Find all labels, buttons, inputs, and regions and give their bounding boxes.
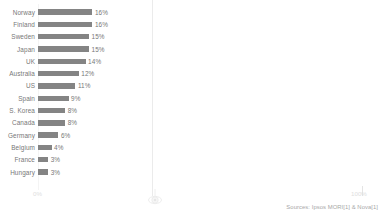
category-label: Hungary [0,169,35,176]
bar [38,108,65,113]
bar [38,83,75,88]
x-axis-tick-min: 0% [33,190,42,197]
bar-track: 16% [35,18,381,30]
bar-value-label: 16% [95,9,108,16]
bar-row: Sweden15% [0,31,381,43]
category-label: UK [0,58,35,65]
bar-row: S. Korea8% [0,104,381,116]
bar [38,59,86,64]
bar-value-label: 4% [54,144,63,151]
bar-track: 15% [35,31,381,43]
bar-row: Hungary3% [0,166,381,178]
bar-row: Finland16% [0,18,381,30]
category-label: Japan [0,46,35,53]
bar [38,145,52,150]
bar [38,71,79,76]
bar [38,120,65,125]
bar-row: US11% [0,80,381,92]
bar-value-label: 15% [92,33,105,40]
category-label: Australia [0,70,35,77]
bar [38,169,48,174]
bar-track: 16% [35,6,381,18]
bar [38,46,89,51]
bar [38,157,48,162]
category-label: S. Korea [0,107,35,114]
bar-row: Australia12% [0,68,381,80]
bar-row: Canada8% [0,117,381,129]
bar-row: Japan15% [0,43,381,55]
bar [38,22,92,27]
bar-track: 4% [35,141,381,153]
bar-row: Germany6% [0,129,381,141]
category-label: France [0,156,35,163]
category-label: Germany [0,132,35,139]
bar-track: 3% [35,166,381,178]
bar-track: 11% [35,80,381,92]
x-axis-tick-max: 100% [351,190,367,197]
bar-value-label: 9% [71,95,80,102]
category-label: Belgium [0,144,35,151]
horizontal-bar-chart: Norway16%Finland16%Sweden15%Japan15%UK14… [0,0,381,218]
plot-area: Norway16%Finland16%Sweden15%Japan15%UK14… [0,6,381,188]
bar-value-label: 15% [92,46,105,53]
bar-row: Spain9% [0,92,381,104]
bar-track: 6% [35,129,381,141]
bar-track: 8% [35,117,381,129]
bar-track: 12% [35,68,381,80]
bar-value-label: 3% [51,156,60,163]
source-note: Sources: Ipsos MORI[1] & Nova[1] [286,203,378,211]
bar [38,34,89,39]
bar-track: 9% [35,92,381,104]
bar [38,132,58,137]
bar-value-label: 8% [68,119,77,126]
category-label: US [0,82,35,89]
bar [38,9,92,14]
bar-row: France3% [0,154,381,166]
category-label: Sweden [0,33,35,40]
bar-track: 15% [35,43,381,55]
watermark-logo-icon [145,189,165,209]
bar-row: Norway16% [0,6,381,18]
bar-value-label: 8% [68,107,77,114]
bar-value-label: 14% [88,58,101,65]
category-label: Norway [0,9,35,16]
category-label: Spain [0,95,35,102]
bar-track: 3% [35,154,381,166]
bar-value-label: 3% [51,169,60,176]
bar-track: 8% [35,104,381,116]
bar [38,96,69,101]
bar-row: Belgium4% [0,141,381,153]
bar-value-label: 12% [81,70,94,77]
category-label: Canada [0,119,35,126]
category-label: Finland [0,21,35,28]
bar-row: UK14% [0,55,381,67]
bar-value-label: 16% [95,21,108,28]
bar-value-label: 6% [61,132,70,139]
bar-track: 14% [35,55,381,67]
bar-value-label: 11% [78,82,91,89]
